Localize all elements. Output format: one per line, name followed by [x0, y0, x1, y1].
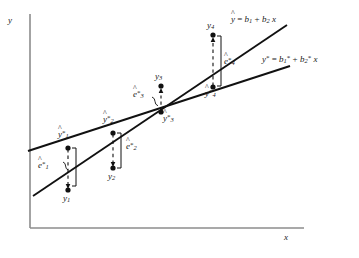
label-yhat-star-4: ^y*4 [205, 89, 216, 99]
figure-canvas [0, 0, 359, 258]
label-yhat-star-1: ^y*1 [58, 130, 69, 140]
label-y-3: y3 [155, 72, 162, 82]
brace-marker-3 [152, 97, 158, 106]
label-ehat-star-3: ^e*3 [133, 90, 144, 100]
label-ehat-star-4: ^e*4 [224, 57, 235, 67]
ols-line-equation-label: ^y = b1 + b2 x [231, 15, 276, 25]
label-ehat-star-1: ^e*1 [38, 161, 49, 171]
label-y-1: y1 [63, 194, 70, 204]
point-marker-yhat-1 [65, 145, 70, 150]
point-marker-y-1 [65, 187, 70, 192]
x-axis-label: x [284, 233, 288, 242]
y-axis-label: y [8, 16, 12, 25]
residual-arrow-3 [159, 88, 164, 93]
residual-arrow-4 [211, 37, 216, 42]
point-marker-y-4 [210, 32, 215, 37]
point-marker-y-2 [110, 165, 115, 170]
alternative-line-equation-label: y* = b1* + b2* x [262, 55, 317, 65]
label-y-2: y2 [108, 172, 115, 182]
hat-accent-ols: ^ [231, 10, 235, 18]
point-marker-y-3 [158, 83, 163, 88]
label-y-4: y4 [207, 21, 214, 31]
label-yhat-star-3: ^y*3 [163, 114, 174, 124]
label-yhat-star-2: ^y*2 [103, 115, 114, 125]
brace-marker-1 [63, 162, 68, 170]
point-marker-yhat-2 [110, 130, 115, 135]
label-ehat-star-2: ^e*2 [126, 142, 137, 152]
regression-residual-figure: y x ^y = b1 + b2 x y* = b1* + b2* x ^y*1… [0, 0, 359, 258]
